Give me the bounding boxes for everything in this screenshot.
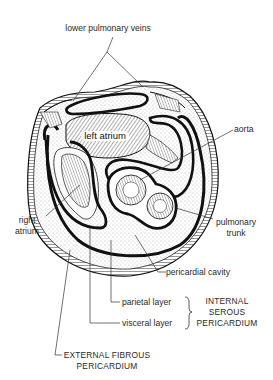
label-lower-pulmonary-veins: lower pulmonary veins bbox=[65, 23, 151, 33]
label-internal-serous-line1: INTERNAL bbox=[205, 296, 248, 306]
label-internal-serous-line3: PERICARDIUM bbox=[197, 318, 258, 328]
label-aorta: aorta bbox=[234, 124, 254, 134]
label-right-atrium-line2: atrium bbox=[15, 226, 39, 236]
label-pulmonary-trunk-line1: pulmonary bbox=[216, 217, 256, 227]
label-external-fibrous-line1: EXTERNAL FIBROUS bbox=[64, 350, 151, 360]
label-visceral-layer: visceral layer bbox=[122, 318, 172, 328]
label-parietal-layer: parietal layer bbox=[122, 297, 171, 307]
pericardium-diagram: lower pulmonary veins left atrium aorta … bbox=[0, 0, 273, 380]
label-internal-serous-line2: SEROUS bbox=[209, 307, 246, 317]
label-pericardial-cavity: pericardial cavity bbox=[166, 267, 230, 277]
label-external-fibrous-line2: PERICARDIUM bbox=[77, 361, 138, 371]
brace bbox=[185, 297, 192, 329]
label-pulmonary-trunk-line2: trunk bbox=[226, 228, 245, 238]
label-right-atrium-line1: right bbox=[19, 215, 36, 225]
label-left-atrium: left atrium bbox=[81, 131, 129, 141]
